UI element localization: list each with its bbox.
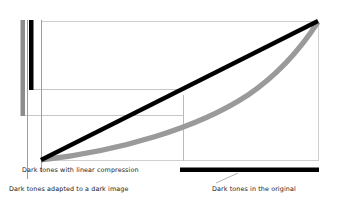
leader-original (216, 173, 238, 183)
caption-linear-compression: Dark tones with linear compression (22, 166, 139, 174)
caption-adapted-dark-image: Dark tones adapted to a dark image (9, 185, 128, 193)
bar-linear-dark-range (29, 20, 34, 90)
bar-adapted-dark-range (21, 20, 26, 116)
bar-original-dark-range (180, 168, 319, 173)
caption-original-dark-tones: Dark tones in the original (212, 185, 296, 193)
